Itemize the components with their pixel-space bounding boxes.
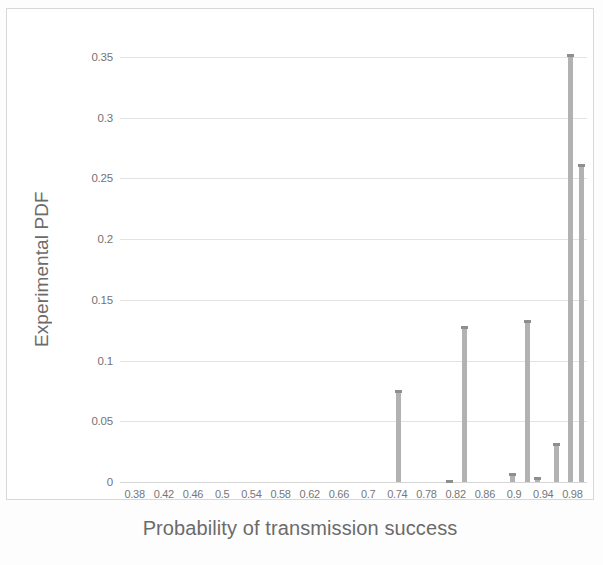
x-axis-tick-label: 0.74 — [387, 488, 407, 500]
x-axis-tick-label: 0.94 — [533, 488, 553, 500]
gridline: 0.15 — [120, 300, 587, 301]
bar — [510, 473, 515, 482]
bar — [579, 164, 584, 482]
chart-canvas: Experimental PDF 00.050.10.150.20.250.30… — [0, 0, 603, 565]
x-axis-tick-label: 0.5 — [215, 488, 229, 500]
x-axis-tick-label: 0.78 — [416, 488, 436, 500]
y-axis-tick-label: 0.2 — [98, 233, 113, 245]
x-axis-tick-label: 0.82 — [446, 488, 466, 500]
chart-frame: Experimental PDF 00.050.10.150.20.250.30… — [6, 8, 594, 500]
x-axis-tick-label: 0.62 — [300, 488, 320, 500]
bar — [535, 477, 540, 482]
gridline: 0.3 — [120, 118, 587, 119]
y-axis-tick-label: 0.1 — [98, 355, 113, 367]
y-axis-tick-label: 0.25 — [91, 172, 113, 184]
y-axis-tick-label: 0.05 — [91, 415, 113, 427]
gridline: 0.2 — [120, 239, 587, 240]
x-axis-tick-label: 0.58 — [270, 488, 290, 500]
x-axis-tick-label: 0.46 — [183, 488, 203, 500]
gridline: 0.1 — [120, 361, 587, 362]
gridline: 0.05 — [120, 421, 587, 422]
y-axis-tick-label: 0.3 — [98, 112, 113, 124]
y-axis-tick-label: 0 — [107, 476, 113, 488]
bar — [447, 480, 452, 482]
y-axis-title: Experimental PDF — [31, 57, 53, 482]
y-axis-tick-label: 0.35 — [91, 51, 113, 63]
bar — [554, 443, 559, 482]
x-axis-tick-label: 0.42 — [154, 488, 174, 500]
x-axis-tick-label: 0.7 — [361, 488, 375, 500]
x-axis-tick-label: 0.54 — [241, 488, 261, 500]
x-axis-tick-label: 0.9 — [507, 488, 521, 500]
gridline: 0.35 — [120, 57, 587, 58]
x-axis-tick-label: 0.86 — [475, 488, 495, 500]
gridline: 0.25 — [120, 178, 587, 179]
bar — [462, 326, 467, 482]
x-axis-tick-label: 0.38 — [124, 488, 144, 500]
plot-area: 00.050.10.150.20.250.30.350.380.420.460.… — [120, 57, 587, 482]
x-axis-title: Probability of transmission success — [7, 517, 593, 540]
x-axis-baseline: 0 — [120, 482, 587, 483]
y-axis-tick-label: 0.15 — [91, 294, 113, 306]
x-axis-tick-label: 0.98 — [562, 488, 582, 500]
bar — [525, 320, 530, 482]
bar — [568, 54, 573, 482]
x-axis-tick-label: 0.66 — [329, 488, 349, 500]
bar — [396, 390, 401, 482]
